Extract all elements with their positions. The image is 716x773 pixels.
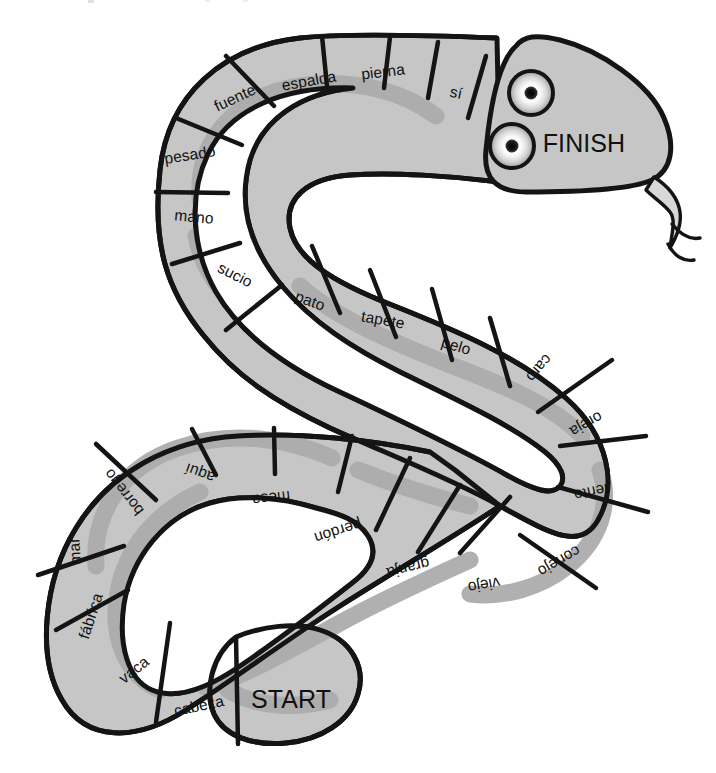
pupil-icon: [506, 140, 519, 153]
eye-upper: [509, 71, 553, 115]
snake-board-game: START cabeza vaca fábrica mar borrego aq…: [0, 0, 716, 773]
forked-tongue-icon: [646, 177, 700, 260]
eye-lower: [490, 124, 534, 168]
pupil-icon: [525, 87, 538, 100]
snake-head: [486, 37, 700, 261]
snake-graphic: [0, 0, 716, 773]
